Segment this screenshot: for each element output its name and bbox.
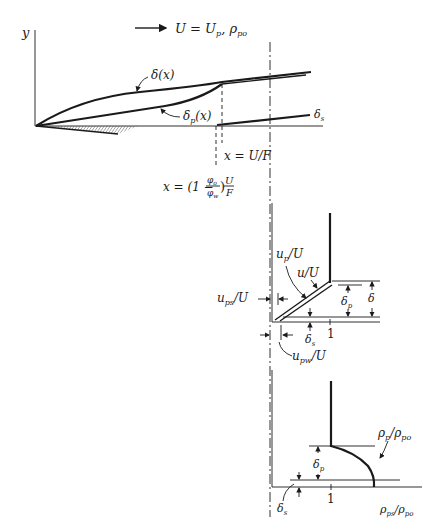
top-diagram: y U = Up, ρpo δ(x) δp(x) δs x = U/F [21,21,325,199]
upw-leader [279,342,292,356]
rho-leader [380,441,388,458]
svg-text:U: U [225,175,234,186]
delta-s-dim-label: δs [305,333,316,348]
delta-p-dim-label: δp [341,295,353,310]
flow-label: U = Up, ρpo [175,21,247,38]
u-profile-diagonal-outer [275,281,330,320]
x-uf-label: x = U/F [224,149,272,163]
delta-s-line [217,115,310,125]
y-axis-label: y [21,25,30,40]
u-profile-diagonal-inner [280,285,332,321]
u-leader [311,280,317,288]
velocity-profile: up/U u/U ups/U δ δp δs 1 upw/U [217,203,380,365]
density-profile: ρp/ρpo δp δs 1 ρps/ρpo [272,370,422,518]
density-tick-one-label: 1 [327,492,335,506]
delta-label: δ(x) [151,68,175,82]
delta-leader [137,77,148,91]
ups-label: ups/U [217,291,249,307]
boundary-layer-diagram: y U = Up, ρpo δ(x) δp(x) δs x = U/F [0,0,444,531]
density-delta-s-label: δs [277,502,288,517]
density-delta-p-label: δp [313,458,325,473]
x-phi-label: x = (1 − φo φw ) U F [163,175,234,199]
delta-s-label: δs [314,108,325,123]
rho-profile-curve [331,446,374,487]
u-label: u/U [297,266,320,280]
svg-text:φo: φo [207,175,217,186]
tick-one-label: 1 [327,327,335,341]
svg-text:φw: φw [207,188,219,199]
density-axis-label: ρps/ρpo [379,503,413,518]
delta-dim-label: δ [368,292,375,305]
delta-p-leader [161,109,180,117]
up-label: up/U [276,247,304,263]
upw-label: upw/U [292,349,327,365]
svg-text:F: F [225,187,234,198]
delta-p-label: δp(x) [183,109,212,125]
rho-label: ρp/ρpo [377,426,411,442]
